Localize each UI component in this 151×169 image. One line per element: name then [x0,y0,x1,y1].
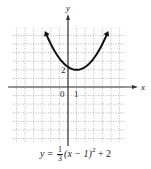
x-axis-label: x [140,82,145,92]
grid [13,28,125,143]
graph: x y 0 1 2 [0,0,151,169]
equation-lhs: y = [40,148,54,159]
y-tick-label: 2 [61,65,66,75]
equation-binomial: (x − 1) [64,148,92,159]
y-axis-label: y [65,3,70,13]
x-axis-arrow-icon [132,85,138,89]
equation-fraction: 1 3 [57,146,63,163]
parabola-curve [46,34,107,70]
equation-caption: y = 1 3 (x − 1)2 + 2 [0,146,151,163]
x-tick-label: 1 [74,89,79,99]
y-axis-arrow-icon [66,14,70,20]
fraction-denominator: 3 [57,155,63,163]
equation-constant: + 2 [95,148,111,159]
origin-label: 0 [60,89,65,99]
